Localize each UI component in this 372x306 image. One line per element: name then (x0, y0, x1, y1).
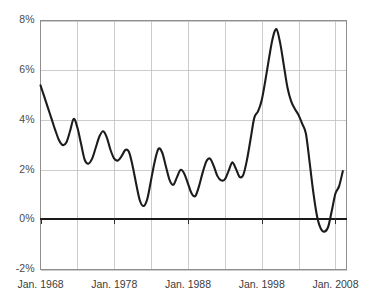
y-axis-tick-label: 4% (19, 113, 34, 125)
horizontal-gridlines (41, 22, 347, 271)
y-axis-tick-label: 0% (19, 212, 34, 224)
y-axis-tick-label: 2% (19, 163, 34, 175)
y-axis-tick-label: 8% (19, 13, 34, 25)
x-axis-tick-label: Jan. 1988 (165, 278, 211, 290)
y-axis-tick-label: 6% (19, 63, 34, 75)
vertical-gridlines (78, 21, 336, 270)
y-axis-tick-label: -2% (16, 262, 35, 274)
chart-container: 8%6%4%2%0%-2% Jan. 1968Jan. 1978Jan. 198… (0, 0, 372, 306)
x-axis-tick-label: Jan. 1968 (17, 278, 63, 290)
line-chart: 8%6%4%2%0%-2% Jan. 1968Jan. 1978Jan. 198… (0, 0, 372, 306)
x-axis-tick-label: Jan. 1978 (91, 278, 137, 290)
x-axis-labels: Jan. 1968Jan. 1978Jan. 1988Jan. 1998Jan.… (17, 278, 358, 290)
x-axis-tick-label: Jan. 1998 (239, 278, 285, 290)
y-axis-labels: 8%6%4%2%0%-2% (16, 13, 35, 274)
x-axis-tick-label: Jan. 2008 (312, 278, 358, 290)
data-series-line (41, 29, 343, 232)
